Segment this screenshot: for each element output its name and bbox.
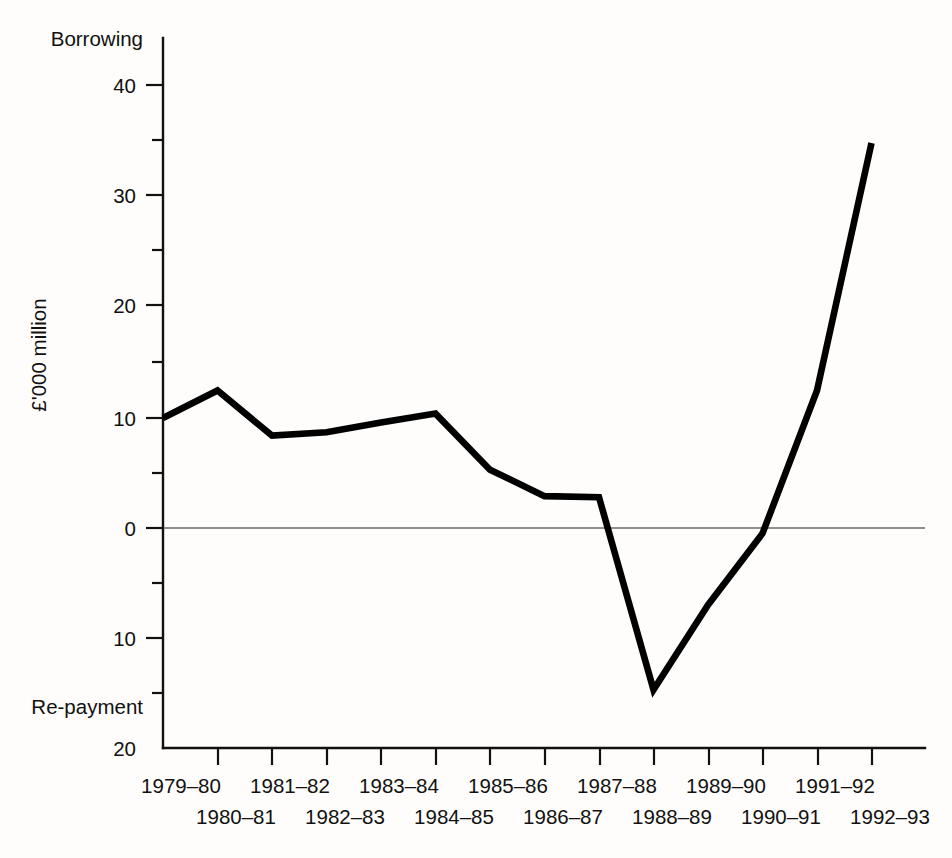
x-axis-label-1979-80: 1979–80 (141, 774, 221, 797)
repayment-label: Re-payment (31, 695, 143, 718)
x-axis-label-1985-86: 1985–86 (468, 774, 548, 797)
y-axis-label-10: 10 (113, 407, 136, 430)
y-axis-label-30: 30 (113, 184, 136, 207)
y-axis-label-minus-20: 20 (113, 737, 136, 760)
chart-page: 40 30 20 10 0 10 20 Borrowing Re-payment… (0, 0, 952, 858)
y-axis-label-40: 40 (113, 74, 136, 97)
y-axis-label-minus-10: 10 (113, 627, 136, 650)
x-axis-label-1992-93: 1992–93 (850, 805, 930, 828)
x-axis-label-1981-82: 1981–82 (250, 774, 330, 797)
x-axis-label-1980-81: 1980–81 (196, 805, 276, 828)
x-axis-label-1990-91: 1990–91 (741, 805, 821, 828)
x-axis-label-1988-89: 1988–89 (632, 805, 712, 828)
x-axis-label-1987-88: 1987–88 (577, 774, 657, 797)
psbr-data-line (163, 143, 872, 690)
x-axis-label-1991-92: 1991–92 (795, 774, 875, 797)
y-axis-title: £'000 million (27, 298, 50, 411)
x-axis-label-1984-85: 1984–85 (414, 805, 494, 828)
x-axis-label-1989-90: 1989–90 (686, 774, 766, 797)
x-axis-label-1982-83: 1982–83 (305, 805, 385, 828)
x-axis-label-1986-87: 1986–87 (523, 805, 603, 828)
x-axis-label-1983-84: 1983–84 (359, 774, 439, 797)
y-axis-label-20: 20 (113, 294, 136, 317)
psbr-line-chart: 40 30 20 10 0 10 20 Borrowing Re-payment… (0, 0, 952, 858)
borrowing-label: Borrowing (51, 27, 143, 50)
y-axis-label-0: 0 (125, 517, 136, 540)
